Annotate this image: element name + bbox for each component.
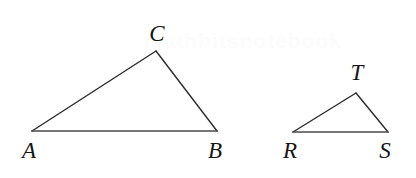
diagram-canvas: mathbitsnotebook A B C R S T: [0, 0, 416, 178]
vertex-label-t: T: [351, 60, 366, 85]
vertex-label-c: C: [149, 21, 165, 46]
vertex-label-a: A: [20, 138, 37, 163]
vertex-label-r: R: [282, 138, 297, 163]
watermark-text: mathbitsnotebook: [144, 29, 342, 52]
vertex-label-b: B: [208, 138, 222, 163]
geometry-figure: mathbitsnotebook A B C R S T: [0, 0, 416, 178]
vertex-label-s: S: [379, 138, 391, 163]
